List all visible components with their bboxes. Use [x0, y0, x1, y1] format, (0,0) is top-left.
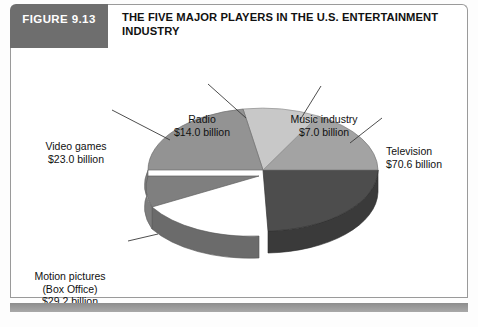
label-music-industry-value: $7.0 billion [272, 126, 376, 139]
figure-footer-bar [10, 303, 468, 312]
label-music-industry: Music industry $7.0 billion [272, 113, 376, 138]
pie-chart-svg [0, 48, 478, 298]
figure-number-label: FIGURE 9.13 [22, 13, 95, 25]
figure-title-line-2: INDUSTRY [122, 25, 457, 39]
label-motion-pictures-name: Motion pictures [8, 270, 132, 283]
figure-header: FIGURE 9.13 THE FIVE MAJOR PLAYERS IN TH… [10, 4, 468, 48]
label-radio-name: Radio [156, 113, 248, 126]
label-radio-value: $14.0 billion [156, 126, 248, 139]
label-music-industry-name: Music industry [272, 113, 376, 126]
label-motion-pictures-sub: (Box Office) [8, 283, 132, 296]
label-video-games-name: Video games [22, 140, 130, 153]
label-video-games-value: $23.0 billion [22, 153, 130, 166]
pie-chart: Radio $14.0 billion Music industry $7.0 … [0, 48, 478, 298]
label-television-name: Television [386, 145, 474, 158]
leader-line-motion-pictures [128, 234, 158, 241]
label-television-value: $70.6 billion [386, 158, 474, 171]
label-video-games: Video games $23.0 billion [22, 140, 130, 165]
figure-container: FIGURE 9.13 THE FIVE MAJOR PLAYERS IN TH… [0, 0, 478, 327]
label-television: Television $70.6 billion [386, 145, 474, 170]
slice-side-motion-pictures [152, 207, 259, 258]
label-radio: Radio $14.0 billion [156, 113, 248, 138]
figure-number-badge: FIGURE 9.13 [10, 4, 108, 48]
figure-title: THE FIVE MAJOR PLAYERS IN THE U.S. ENTER… [108, 4, 468, 48]
figure-title-line-1: THE FIVE MAJOR PLAYERS IN THE U.S. ENTER… [122, 11, 457, 25]
slice-top-motion-pictures [146, 176, 259, 207]
